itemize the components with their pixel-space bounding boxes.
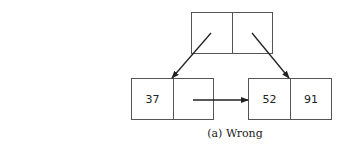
figure-caption: (a) Wrong: [0, 127, 349, 140]
arrow-root-to-left-leaf: [172, 33, 211, 78]
arrow-root-to-right-leaf: [252, 33, 289, 78]
